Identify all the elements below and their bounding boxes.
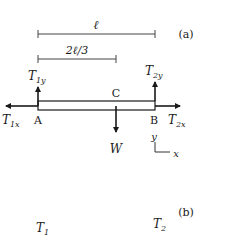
coordinate-axes-icon [155, 142, 170, 152]
two-thirds-length-label: 2ℓ/3 [65, 44, 88, 57]
force-label-t2y: T2y [145, 64, 163, 80]
point-b-label: B [150, 114, 158, 127]
force-label-t2x: T2x [168, 113, 186, 129]
point-a-label: A [33, 114, 43, 127]
beam-free-body-diagram: ℓ 2ℓ/3 (a) T1y T2y T1x T2x W A B C y x (… [0, 0, 225, 235]
panel-b-label: (b) [178, 206, 194, 219]
point-c-label: C [112, 87, 120, 100]
axis-y-label: y [150, 131, 157, 142]
length-label: ℓ [94, 18, 99, 32]
force-label-t1y: T1y [28, 69, 46, 85]
force-label-w: W [110, 142, 124, 156]
axis-x-label: x [173, 148, 179, 159]
beam [38, 101, 155, 110]
force-label-t1x: T1x [2, 113, 20, 129]
tension-label-t1: T1 [36, 221, 49, 235]
panel-a-label: (a) [178, 28, 193, 41]
tension-label-t2: T2 [153, 217, 166, 233]
